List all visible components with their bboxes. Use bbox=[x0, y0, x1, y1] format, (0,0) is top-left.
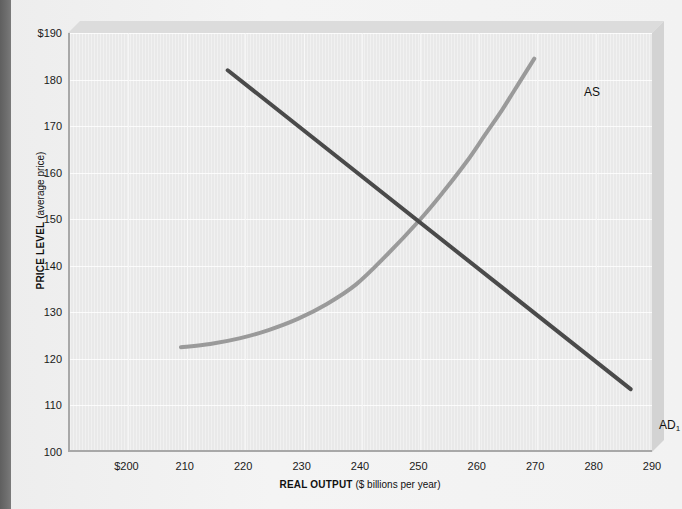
x-axis-tick-label: $200 bbox=[96, 461, 156, 472]
x-axis-tick-label: 270 bbox=[505, 461, 565, 472]
plot-shell: AS AD1 bbox=[68, 33, 652, 452]
curve-as bbox=[181, 59, 534, 348]
x-axis-tick-label: 220 bbox=[213, 461, 273, 472]
y-axis-tick-label: 180 bbox=[16, 75, 62, 86]
x-axis-tick-label: 210 bbox=[155, 461, 215, 472]
x-axis-title-bold: REAL OUTPUT bbox=[280, 479, 353, 490]
plot-bevel-top bbox=[68, 21, 664, 33]
x-axis-tick-labels: $200210220230240250260270280290 bbox=[0, 461, 680, 477]
x-axis-tick-label: 280 bbox=[564, 461, 624, 472]
plot-area bbox=[68, 33, 652, 452]
ad-curve-label: AD1 bbox=[659, 418, 680, 432]
y-axis-title-regular: (average price) bbox=[35, 152, 46, 219]
x-axis-tick-label: 250 bbox=[388, 461, 448, 472]
x-axis-tick-label: 230 bbox=[272, 461, 332, 472]
y-axis-title-bold: PRICE LEVEL bbox=[35, 222, 46, 290]
y-axis-title: PRICE LEVEL (average price) bbox=[35, 121, 46, 321]
x-axis-tick-label: 290 bbox=[622, 461, 682, 472]
y-axis-tick-label: $190 bbox=[16, 28, 62, 39]
x-axis-tick-label: 240 bbox=[330, 461, 390, 472]
curves-layer bbox=[70, 33, 652, 452]
plot-bevel-right bbox=[652, 21, 664, 452]
ad-curve-label-subscript: 1 bbox=[676, 424, 680, 433]
as-curve-label: AS bbox=[584, 85, 600, 99]
y-axis-tick-label: 120 bbox=[16, 354, 62, 365]
x-axis-tick-label: 260 bbox=[447, 461, 507, 472]
x-axis-title-regular: ($ billions per year) bbox=[355, 479, 440, 490]
y-axis-tick-label: 100 bbox=[16, 447, 62, 458]
y-axis-tick-label: 110 bbox=[16, 400, 62, 411]
curve-ad1 bbox=[228, 70, 631, 389]
x-axis-title: REAL OUTPUT ($ billions per year) bbox=[68, 479, 652, 490]
